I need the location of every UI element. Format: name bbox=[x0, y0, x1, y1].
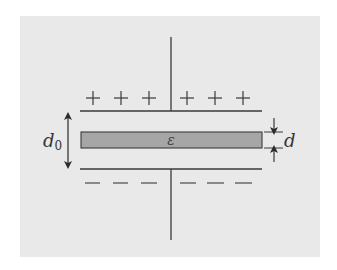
plus-icon bbox=[114, 91, 128, 105]
plus-icon bbox=[142, 91, 156, 105]
plus-icon bbox=[86, 91, 100, 105]
plus-icon bbox=[208, 91, 222, 105]
slab-permittivity-label: ε bbox=[167, 132, 175, 148]
slab-dimension bbox=[264, 118, 283, 162]
slab-thickness-label: d bbox=[284, 130, 296, 151]
positive-charges bbox=[86, 91, 250, 105]
plus-icon bbox=[236, 91, 250, 105]
gap-dimension-label: d0 bbox=[43, 130, 62, 153]
plus-icon bbox=[180, 91, 194, 105]
capacitor-diagram: ε d0 d bbox=[0, 0, 337, 270]
